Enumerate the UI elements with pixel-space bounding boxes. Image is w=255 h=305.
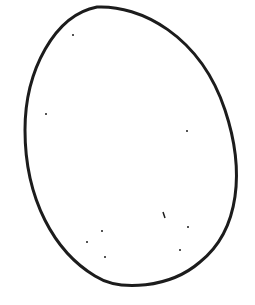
egg-drawing	[0, 0, 255, 305]
speck	[179, 249, 181, 251]
egg-outline	[25, 7, 236, 286]
speck	[101, 230, 103, 232]
speck	[187, 226, 189, 228]
speck	[45, 113, 47, 115]
speck	[86, 241, 88, 243]
speck	[104, 256, 106, 258]
speck	[72, 34, 74, 36]
speck	[186, 130, 188, 132]
